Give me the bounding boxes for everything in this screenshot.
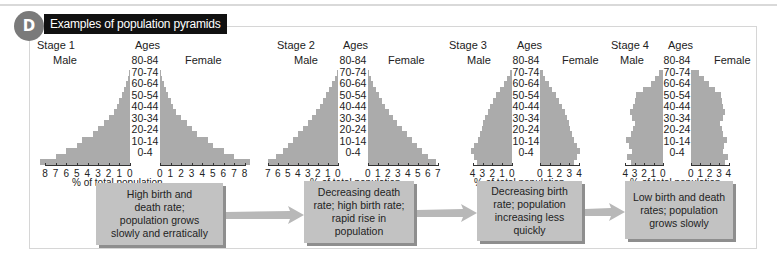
male-bar [312,115,338,121]
female-bar [540,98,559,104]
female-bar [160,76,162,82]
female-bar [540,92,556,98]
tick-mark [579,163,580,166]
tick-mark [418,163,419,166]
tick-mark [224,163,225,166]
female-bar [691,154,728,160]
tick-label: 5 [210,168,216,179]
male-bar [308,120,338,126]
stage-description-box: Low birth and deathrates; populationgrow… [625,181,733,239]
male-bar [276,154,338,160]
age-group-column: 80-8470-7460-6450-5440-4430-3420-2410-14… [512,55,540,159]
ages-label: Ages [343,39,368,51]
female-bar [160,70,161,76]
male-label: Male [53,54,77,66]
female-bar [691,126,722,132]
male-bar [631,131,663,137]
female-bar [160,137,208,143]
age-group-label: 20-24 [130,124,160,136]
male-label: Male [467,54,491,66]
female-label: Female [714,54,751,66]
stage-description-box: Decreasing deathrate; high birth rate;ra… [304,181,414,243]
female-bar [368,131,407,137]
age-group-label: 60-64 [512,78,540,90]
tick-label: 6 [63,168,69,179]
female-bar [160,131,197,137]
female-label: Female [562,54,599,66]
female-bar [540,143,577,149]
tick-label: 1 [168,168,174,179]
tick-label: 6 [425,168,431,179]
tick-mark [119,163,120,166]
female-bar [160,87,166,93]
tick-label: 3 [566,168,572,179]
tick-mark [171,163,172,166]
flow-arrow-icon [417,204,477,224]
female-bar [691,92,721,98]
male-bar [109,115,130,121]
tick-mark [130,163,131,166]
male-bar [626,137,663,143]
female-bar [540,76,545,82]
tick-mark [318,163,319,166]
female-bar [691,115,723,121]
stage-label: Stage 2 [277,39,315,51]
male-bar [636,92,663,98]
male-bar [114,109,130,115]
female-bar [540,87,552,93]
tick-label: 6 [221,168,227,179]
tick-label: 7 [231,168,237,179]
female-bar [691,104,723,110]
male-bar [77,143,130,149]
tick-mark [550,163,551,166]
tick-mark [700,163,701,166]
tick-mark [298,163,299,166]
age-group-label: 40-44 [130,101,160,113]
male-bar [320,104,338,110]
stage-description-text: Low birth and deathrates; populationgrow… [633,191,725,230]
tick-mark [398,163,399,166]
tick-mark [635,163,636,166]
female-bar [540,109,565,115]
female-bar [691,87,715,93]
tick-mark [654,163,655,166]
female-label: Female [388,54,425,66]
female-bar [540,137,574,143]
ages-label: Ages [135,39,160,51]
tick-label: 4 [295,168,301,179]
male-bar [627,154,663,160]
age-group-column: 80-8470-7460-6450-5440-4430-3420-2410-14… [130,55,160,159]
male-bar [82,137,130,143]
age-group-label: 0-4 [130,147,160,159]
female-bar [160,109,176,115]
male-bar [632,148,663,154]
female-bar [540,120,569,126]
male-bar [488,109,513,115]
figure-title: Examples of population pyramids [44,14,227,34]
male-bar [119,98,130,104]
female-bar [160,115,181,121]
stage-description-box: High birth anddeath rate;population grow… [96,183,223,245]
tick-mark [192,163,193,166]
male-bar [655,76,663,82]
tick-mark [625,163,626,166]
female-bar [691,109,725,115]
tick-mark [66,163,67,166]
male-bar [490,104,512,110]
female-bar [540,70,543,76]
age-group-label: 60-64 [338,78,368,90]
tick-mark [98,163,99,166]
male-bar [480,131,512,137]
tick-mark [502,163,503,166]
tick-mark [691,163,692,166]
female-bar [368,120,397,126]
male-bar [483,120,512,126]
tick-label: 8 [242,168,248,179]
male-bar [122,92,130,98]
age-group-label: 60-64 [663,78,691,90]
tick-mark [368,163,369,166]
female-bar [160,81,164,87]
tick-mark [483,163,484,166]
stage-description-text: High birth anddeath rate;population grow… [111,188,208,240]
female-bar [368,76,371,82]
